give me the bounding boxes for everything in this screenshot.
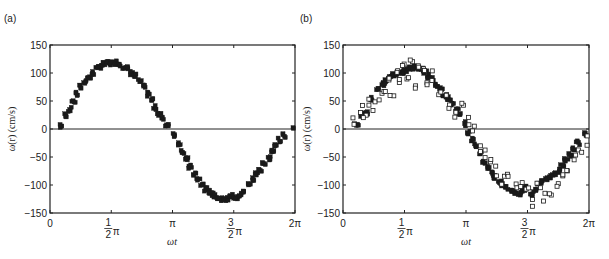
data-point xyxy=(193,171,197,175)
figure: (a) ω(r) (cm/s) ωt 150100500−50−100−1500… xyxy=(0,0,609,259)
data-point xyxy=(483,148,487,152)
data-point xyxy=(489,157,493,161)
data-point xyxy=(578,143,582,147)
data-point xyxy=(74,91,78,95)
data-point xyxy=(472,124,476,128)
data-point xyxy=(425,83,429,87)
data-point xyxy=(514,182,518,186)
data-point xyxy=(541,199,545,203)
data-point xyxy=(471,138,475,142)
data-point xyxy=(430,79,434,83)
data-point xyxy=(351,116,355,120)
data-point xyxy=(352,122,356,126)
y-tick-label: 100 xyxy=(30,68,47,79)
data-point xyxy=(535,181,539,185)
data-point xyxy=(367,103,371,107)
data-point xyxy=(159,111,163,115)
data-point xyxy=(504,184,508,188)
data-point xyxy=(454,110,458,114)
data-point xyxy=(361,103,365,107)
x-tick-label: 1 xyxy=(105,217,111,228)
svg-text:2: 2 xyxy=(228,229,234,240)
data-point xyxy=(540,180,544,184)
data-point xyxy=(101,60,105,64)
data-point xyxy=(565,168,569,172)
data-point xyxy=(251,176,255,180)
svg-text:π: π xyxy=(235,226,242,237)
data-point xyxy=(268,157,272,161)
data-point xyxy=(180,151,184,155)
data-point xyxy=(373,100,377,104)
x-tick-label: 0 xyxy=(47,218,53,229)
x-tick-label: 2π xyxy=(583,218,596,229)
x-tick-label: π xyxy=(463,218,470,229)
data-point xyxy=(161,117,165,121)
x-tick-label: 3 xyxy=(522,217,528,228)
data-point xyxy=(447,106,451,110)
data-point xyxy=(358,110,362,114)
data-point xyxy=(460,101,464,105)
data-point xyxy=(555,184,559,188)
data-point xyxy=(506,174,510,178)
data-point xyxy=(273,144,277,148)
data-point xyxy=(520,181,524,185)
data-point xyxy=(467,123,471,127)
panel-b: (b) ω(r) (cm/s) ωt 150100500−50−100−1500… xyxy=(300,13,595,247)
y-tick-label: 100 xyxy=(323,68,340,79)
data-point xyxy=(139,79,143,83)
x-tick-label: 3 xyxy=(228,217,234,228)
data-point xyxy=(383,89,387,93)
data-point xyxy=(143,83,147,87)
data-point xyxy=(423,69,427,73)
data-point xyxy=(530,197,534,201)
data-point xyxy=(408,58,412,62)
data-point xyxy=(376,87,380,91)
data-point xyxy=(230,192,234,196)
data-point xyxy=(234,196,238,200)
data-point xyxy=(543,191,547,195)
data-point xyxy=(387,76,391,80)
x-axis-title-a: ωt xyxy=(167,236,177,247)
y-tick-label: 0 xyxy=(41,124,47,135)
svg-text:2: 2 xyxy=(522,229,528,240)
data-point xyxy=(494,164,498,168)
data-point xyxy=(439,90,443,94)
scatter-points-a xyxy=(58,59,295,203)
data-point xyxy=(575,139,579,143)
y-tick-label: −100 xyxy=(24,180,47,191)
data-point xyxy=(519,185,523,189)
data-point xyxy=(585,134,589,138)
data-point xyxy=(430,69,434,73)
data-point xyxy=(574,153,578,157)
data-point xyxy=(466,115,470,119)
y-tick-label: 150 xyxy=(323,40,340,51)
data-point xyxy=(495,174,499,178)
data-point xyxy=(184,156,188,160)
y-tick-label: −50 xyxy=(323,152,340,163)
scatter-points-b xyxy=(351,58,589,208)
y-tick-label: 50 xyxy=(329,96,341,107)
data-point xyxy=(155,112,159,116)
data-point xyxy=(125,65,129,69)
data-point xyxy=(580,150,584,154)
data-point xyxy=(371,108,375,112)
y-axis-title-a: ω(r) (cm/s) xyxy=(6,107,18,152)
data-point xyxy=(557,167,561,171)
axes-b: 150100500−50−100−150012ππ32π2π xyxy=(317,40,595,241)
data-point xyxy=(401,64,405,68)
data-point xyxy=(487,165,491,169)
y-tick-label: −150 xyxy=(317,208,340,219)
data-point xyxy=(147,92,151,96)
data-point xyxy=(117,63,121,67)
data-point xyxy=(377,98,381,102)
svg-text:2: 2 xyxy=(399,229,405,240)
data-point xyxy=(453,115,457,119)
y-tick-label: −50 xyxy=(30,152,47,163)
data-point xyxy=(397,78,401,82)
panel-label-a: (a) xyxy=(4,13,16,24)
data-point xyxy=(72,100,76,104)
data-point xyxy=(561,163,565,167)
data-point xyxy=(407,76,411,80)
y-tick-label: 50 xyxy=(36,96,48,107)
panel-label-b: (b) xyxy=(300,13,312,24)
